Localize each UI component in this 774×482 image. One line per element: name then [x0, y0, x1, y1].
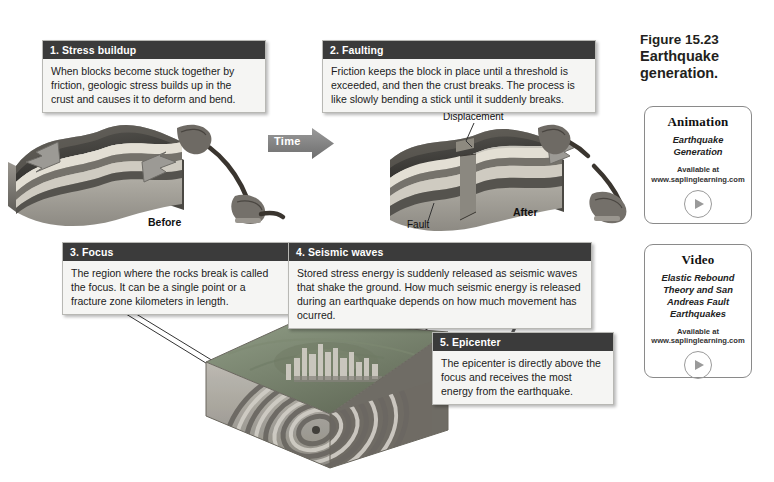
panel-faulting-title: 2. Faulting: [323, 41, 595, 59]
panel-focus: 3. Focus The region where the rocks brea…: [62, 242, 292, 315]
figure-caption: Figure 15.23 Earthquake generation.: [640, 32, 774, 82]
time-arrow: Time: [268, 128, 336, 160]
seismic-wave-block-illustration: [198, 318, 458, 468]
displacement-leader-line: [452, 123, 480, 151]
panel-seismic-waves-text: Stored stress energy is suddenly release…: [297, 266, 583, 322]
animation-availability: Available at www.saplinglearning.com: [651, 165, 745, 185]
play-icon[interactable]: [684, 190, 712, 218]
hands-broken-stick-illustration: [538, 122, 638, 227]
panel-faulting-body: Friction keeps the block in place until …: [323, 59, 595, 112]
video-availability: Available at www.saplinglearning.com: [651, 327, 745, 347]
fault-leader-line: [420, 203, 440, 223]
animation-url: www.saplinglearning.com: [651, 175, 744, 184]
panel-epicenter-title: 5. Epicenter: [433, 333, 613, 351]
panel-focus-title: 3. Focus: [63, 243, 291, 261]
panel-epicenter: 5. Epicenter The epicenter is directly a…: [432, 332, 614, 405]
panel-focus-body: The region where the rocks break is call…: [63, 261, 291, 314]
panel-faulting: 2. Faulting Friction keeps the block in …: [322, 40, 596, 113]
video-media-box[interactable]: Video Elastic Rebound Theory and San And…: [644, 244, 752, 378]
panel-epicenter-text: The epicenter is directly above the focu…: [441, 356, 605, 398]
figure-number: Figure 15.23: [640, 32, 719, 47]
panel-epicenter-body: The epicenter is directly above the focu…: [433, 351, 613, 404]
animation-title: Earthquake Generation: [651, 135, 745, 159]
panel-focus-text: The region where the rocks break is call…: [71, 266, 283, 308]
animation-available-label: Available at: [677, 165, 719, 174]
panel-seismic-waves-body: Stored stress energy is suddenly release…: [289, 261, 591, 328]
panel-seismic-waves-title: 4. Seismic waves: [289, 243, 591, 261]
video-kind-label: Video: [651, 252, 745, 268]
panel-stress-buildup-text: When blocks become stuck together by fri…: [51, 64, 257, 106]
video-title: Elastic Rebound Theory and San Andreas F…: [651, 273, 745, 321]
animation-media-box[interactable]: Animation Earthquake Generation Availabl…: [644, 106, 752, 224]
label-after: After: [513, 206, 538, 218]
animation-kind-label: Animation: [651, 114, 745, 130]
time-arrow-label: Time: [274, 135, 301, 147]
panel-seismic-waves: 4. Seismic waves Stored stress energy is…: [288, 242, 592, 329]
video-url: www.saplinglearning.com: [651, 336, 744, 345]
panel-faulting-text: Friction keeps the block in place until …: [331, 64, 587, 106]
panel-stress-buildup-title: 1. Stress buildup: [43, 41, 265, 59]
panel-stress-buildup: 1. Stress buildup When blocks become stu…: [42, 40, 266, 113]
figure-title: Earthquake generation.: [640, 48, 774, 82]
before-block-illustration: [6, 108, 196, 233]
play-icon[interactable]: [684, 351, 712, 379]
panel-stress-buildup-body: When blocks become stuck together by fri…: [43, 59, 265, 112]
figure-canvas: Before Time: [0, 0, 774, 482]
video-available-label: Available at: [677, 327, 719, 336]
